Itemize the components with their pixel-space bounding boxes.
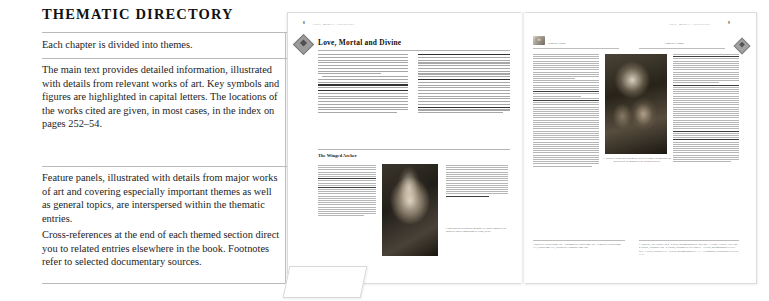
cross-references-text: Adonis see Flowers page 112 · Endymion s…	[533, 243, 625, 250]
central-plate-image	[605, 54, 667, 154]
section-title-rule	[318, 50, 510, 51]
explainer-chapter-themes: Each chapter is divided into themes.	[42, 38, 282, 52]
section-title: Love, Mortal and Divine	[318, 38, 401, 47]
feature-panel-caption: Cupid appears in a golden ink made in Lu…	[446, 227, 508, 234]
explainer-cross-references: Cross-references at the end of each them…	[42, 228, 282, 269]
page-curl	[283, 266, 368, 298]
central-plate-caption: A. Jacopo's Chiaro and Endymion, detail …	[599, 157, 675, 164]
spread-gutter	[521, 12, 525, 284]
right-rule-2	[639, 48, 725, 49]
footnotes-text: 1 Apuleius, The Golden Ass 4 · 2 Ovid, M…	[639, 243, 739, 257]
explainer-feature-panels: Feature panels, illustrated with details…	[42, 171, 282, 225]
right-rule-1	[533, 48, 619, 49]
left-page-column-1	[318, 54, 408, 115]
thumbnail-venus-label: Venus see Cupid	[548, 42, 565, 45]
cupid-detail-image	[382, 164, 438, 256]
footnote-rule	[639, 240, 739, 241]
right-running-head: LOVE, MORTAL AND DIVINE	[669, 23, 710, 26]
left-page-column-2	[418, 54, 510, 115]
divider-rule-1	[42, 32, 285, 33]
page-title: THEMATIC DIRECTORY	[42, 6, 234, 23]
right-page-column-1	[533, 54, 599, 168]
divider-rule-2	[42, 58, 285, 59]
explainer-main-text: The main text provides detailed informat…	[42, 63, 282, 131]
feature-panel-column-2	[446, 165, 508, 198]
right-page-column-2	[673, 54, 739, 163]
cross-reference-rule	[533, 240, 625, 241]
divider-rule-4	[42, 283, 285, 284]
feature-panel-title: The Winged Archer	[318, 153, 357, 158]
thematic-directory-page: THEMATIC DIRECTORY Each chapter is divid…	[0, 0, 769, 301]
right-folio-number: 9	[728, 21, 730, 25]
thumbnail-venus-icon	[533, 36, 545, 45]
leader-spine	[285, 32, 286, 283]
left-running-head: LOVE, MORTAL AND DIVINE	[313, 23, 354, 26]
book-spread: 8 LOVE, MORTAL AND DIVINE Love, Mortal a…	[287, 12, 757, 284]
explainer-column: THEMATIC DIRECTORY Each chapter is divid…	[0, 0, 286, 301]
left-folio-number: 8	[303, 21, 305, 25]
thumbnail-chaos-label: Chaos see Europa	[665, 42, 684, 45]
divider-rule-3	[42, 166, 285, 167]
feature-panel-column-1	[318, 165, 376, 218]
feature-panel-rule	[318, 149, 510, 150]
